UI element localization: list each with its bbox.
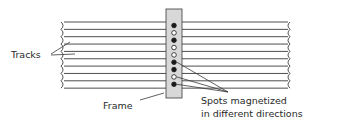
tape-right-torn-edge <box>288 22 290 88</box>
tracks-label: Tracks <box>10 49 41 60</box>
spots-leader-lines <box>177 62 228 92</box>
spot-open <box>172 75 177 80</box>
spot-open <box>172 45 177 50</box>
spots-group <box>172 23 177 86</box>
tape-left-torn-edge <box>61 22 63 88</box>
spots-label-line2: in different directions <box>201 108 303 119</box>
spot-filled <box>172 60 177 65</box>
frame-label: Frame <box>103 100 133 111</box>
spot-open <box>172 31 177 36</box>
spot-open <box>172 53 177 58</box>
frame-leader-line <box>140 93 164 100</box>
spot-filled <box>172 67 177 72</box>
magnetic-tape-diagram: Tracks Frame Spots magnetized in differe… <box>0 0 343 126</box>
spot-filled <box>172 82 177 87</box>
spots-label-line1: Spots magnetized <box>201 95 287 106</box>
spot-filled <box>172 38 177 43</box>
spot-filled <box>172 23 177 28</box>
